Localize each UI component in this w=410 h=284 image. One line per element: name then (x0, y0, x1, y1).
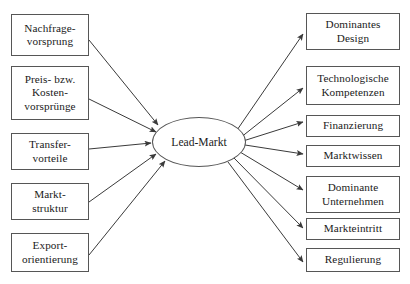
outgoing-edge-lead-markt-to-technologische-kompetenzen (240, 88, 303, 138)
outgoing-edge-lead-markt-to-finanzierung (243, 122, 303, 141)
outcome-node-label: Markteintritt (324, 222, 382, 235)
incoming-edge-marktstruktur-to-lead-markt (89, 154, 156, 202)
outgoing-edge-lead-markt-to-regulierung (228, 162, 303, 262)
driver-node-label: Export- orientierung (22, 239, 78, 265)
outcome-node-label: Regulierung (325, 253, 381, 266)
outcome-node-label: Technologische Kompetenzen (317, 72, 388, 98)
outcome-node-label: Dominante Unternehmen (322, 181, 384, 207)
incoming-edge-preis-kostenvorspruenge-to-lead-markt (89, 99, 156, 132)
outgoing-edge-lead-markt-to-markteintritt (234, 158, 303, 228)
outgoing-edge-lead-markt-to-dominante-unternehmen (240, 152, 303, 190)
outcome-node-dominantes-design[interactable]: Dominantes Design (306, 13, 400, 50)
driver-node-nachfragevorsprung[interactable]: Nachfrage- vorsprung (11, 14, 89, 56)
outcome-node-regulierung[interactable]: Regulierung (306, 248, 400, 272)
outcome-node-finanzierung[interactable]: Finanzierung (306, 115, 400, 137)
incoming-edge-transfervorteile-to-lead-markt (89, 143, 151, 149)
driver-node-transfervorteile[interactable]: Transfer- vorteile (11, 133, 89, 170)
center-node-lead-markt[interactable]: Lead-Markt (152, 117, 246, 167)
outgoing-edge-lead-markt-to-marktwissen (245, 145, 303, 154)
driver-node-marktstruktur[interactable]: Markt- struktur (11, 183, 89, 220)
driver-node-exportorientierung[interactable]: Export- orientierung (11, 233, 89, 272)
driver-node-label: Transfer- vorteile (29, 138, 71, 164)
outcome-node-technologische-kompetenzen[interactable]: Technologische Kompetenzen (306, 66, 400, 105)
driver-node-preis-kostenvorspruenge[interactable]: Preis- bzw. Kosten- vorsprünge (11, 66, 89, 120)
center-node-label: Lead-Markt (171, 136, 226, 149)
incoming-edge-nachfragevorsprung-to-lead-markt (89, 40, 158, 125)
outgoing-edge-lead-markt-to-dominantes-design (235, 34, 303, 133)
diagram-canvas: Nachfrage- vorsprungPreis- bzw. Kosten- … (0, 0, 410, 284)
outcome-node-marktwissen[interactable]: Marktwissen (306, 145, 400, 167)
driver-node-label: Preis- bzw. Kosten- vorsprünge (24, 73, 75, 113)
driver-node-label: Nachfrage- vorsprung (24, 22, 75, 48)
driver-node-label: Markt- struktur (32, 188, 68, 214)
outcome-node-dominante-unternehmen[interactable]: Dominante Unternehmen (306, 176, 400, 213)
outcome-node-markteintritt[interactable]: Markteintritt (306, 218, 400, 240)
incoming-edge-exportorientierung-to-lead-markt (89, 161, 165, 255)
top-crop-artifact (170, 0, 240, 5)
outcome-node-label: Dominantes Design (325, 18, 380, 44)
outcome-node-label: Marktwissen (324, 149, 383, 162)
outcome-node-label: Finanzierung (323, 119, 383, 132)
